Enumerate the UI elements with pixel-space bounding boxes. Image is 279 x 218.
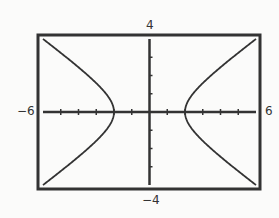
- plot-area: [0, 0, 279, 218]
- axes: [43, 39, 256, 185]
